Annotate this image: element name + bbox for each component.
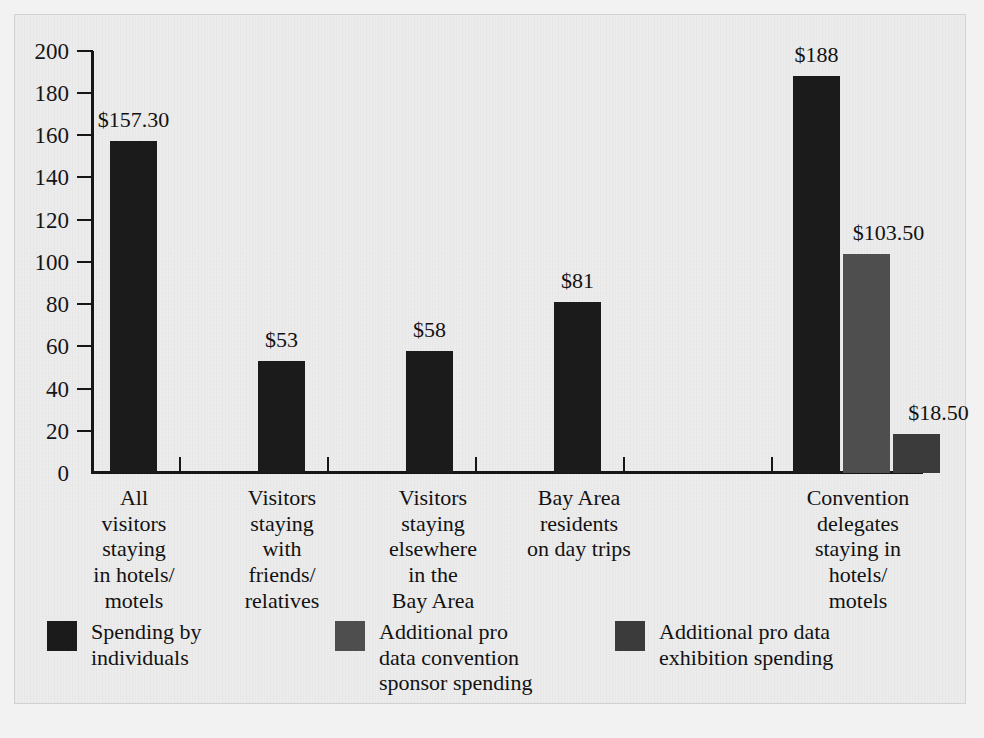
y-axis-label-120: 120 [15, 209, 69, 232]
y-tick-mark-60 [77, 345, 93, 347]
y-tick-mark-100 [77, 261, 93, 263]
bar-value-visitors-friends: $53 [226, 329, 337, 351]
x-category-label-convention-delegates: Convention delegates staying in hotels/ … [779, 485, 937, 614]
y-axis-label-200: 200 [15, 40, 69, 63]
chart-legend: Spending by individuals Additional pro d… [15, 611, 967, 705]
y-axis-label-100: 100 [15, 251, 69, 274]
x-tick-mark-3 [623, 457, 625, 472]
x-tick-mark-2 [475, 457, 477, 472]
bar-convention-delegates-sponsor [843, 254, 890, 473]
legend-label-individuals: Spending by individuals [91, 619, 202, 670]
legend-swatch-individuals-icon [47, 621, 77, 651]
bar-value-visitors-elsewhere: $58 [374, 319, 485, 341]
y-tick-mark-80 [77, 303, 93, 305]
x-category-label-visitors-friends: Visitors staying with friends/ relatives [221, 485, 343, 614]
y-tick-mark-200 [77, 50, 93, 52]
bar-convention-delegates-individuals [793, 76, 840, 473]
bar-value-all-visitors-hotels: $157.30 [78, 109, 189, 131]
y-axis-label-0: 0 [15, 462, 69, 485]
y-tick-mark-140 [77, 176, 93, 178]
legend-swatch-exhibition-icon [615, 621, 645, 651]
legend-entry-convention-sponsor-spending[interactable]: Additional pro data convention sponsor s… [335, 619, 615, 696]
x-tick-mark-0 [179, 457, 181, 472]
x-tick-mark-4 [771, 457, 773, 472]
bar-all-visitors-hotels-individuals [110, 141, 157, 473]
y-tick-mark-40 [77, 388, 93, 390]
x-tick-mark-1 [327, 457, 329, 472]
bar-chart-plot-area: 200 180 160 140 120 100 80 60 40 20 0 $1… [15, 15, 967, 705]
x-category-label-visitors-elsewhere: Visitors staying elsewhere in the Bay Ar… [365, 485, 501, 614]
legend-label-convention-sponsor: Additional pro data convention sponsor s… [379, 619, 532, 696]
legend-label-exhibition: Additional pro data exhibition spending [659, 619, 833, 670]
y-axis-label-80: 80 [15, 293, 69, 316]
figure-frame: 200 180 160 140 120 100 80 60 40 20 0 $1… [14, 14, 966, 704]
y-axis-label-60: 60 [15, 335, 69, 358]
bar-value-convention-exhibition: $18.50 [871, 402, 984, 424]
legend-entry-exhibition-spending[interactable]: Additional pro data exhibition spending [615, 619, 915, 670]
y-axis-label-40: 40 [15, 378, 69, 401]
bar-visitors-elsewhere-individuals [406, 351, 453, 473]
y-axis-label-180: 180 [15, 82, 69, 105]
x-category-label-all-visitors-hotels: All visitors staying in hotels/ motels [73, 485, 195, 614]
y-tick-mark-120 [77, 219, 93, 221]
legend-swatch-convention-sponsor-icon [335, 621, 365, 651]
bar-convention-delegates-exhibition [893, 434, 940, 473]
y-axis-label-140: 140 [15, 166, 69, 189]
bar-value-convention-individuals: $188 [761, 44, 872, 66]
y-tick-mark-20 [77, 430, 93, 432]
legend-entry-spending-by-individuals[interactable]: Spending by individuals [47, 619, 317, 670]
bar-visitors-friends-individuals [258, 361, 305, 473]
y-axis-label-20: 20 [15, 420, 69, 443]
x-category-label-bay-area-residents: Bay Area residents on day trips [505, 485, 653, 562]
y-tick-mark-180 [77, 92, 93, 94]
bar-bay-area-residents-individuals [554, 302, 601, 473]
y-axis-label-160: 160 [15, 124, 69, 147]
bar-value-bay-area-residents: $81 [522, 270, 633, 292]
y-tick-mark-160 [77, 134, 93, 136]
bar-value-convention-sponsor: $103.50 [821, 222, 956, 244]
scanned-page: 200 180 160 140 120 100 80 60 40 20 0 $1… [0, 0, 984, 738]
